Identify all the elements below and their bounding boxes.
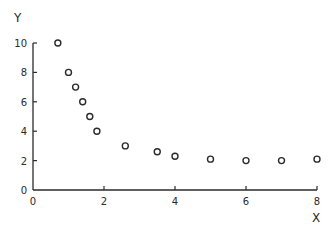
x-tick-label: 4 [172, 196, 178, 207]
data-point [154, 149, 160, 155]
y-axis-label: Y [13, 11, 22, 25]
data-points [55, 40, 320, 164]
scatter-chart: 024681002468 Y X [0, 0, 334, 237]
tick-labels: 024681002468 [14, 38, 320, 207]
x-tick-label: 6 [243, 196, 249, 207]
data-point [208, 156, 214, 162]
x-tick-label: 8 [314, 196, 320, 207]
data-point [172, 153, 178, 159]
data-point [279, 158, 285, 164]
data-point [87, 114, 93, 120]
y-tick-label: 8 [21, 67, 27, 78]
y-tick-label: 10 [14, 38, 27, 49]
data-point [243, 158, 249, 164]
y-tick-label: 2 [21, 156, 27, 167]
data-point [314, 156, 320, 162]
y-tick-label: 6 [21, 97, 27, 108]
data-point [73, 84, 79, 90]
y-tick-label: 4 [21, 126, 27, 137]
data-point [80, 99, 86, 105]
axes [33, 43, 317, 190]
x-tick-label: 2 [101, 196, 107, 207]
x-tick-label: 0 [30, 196, 36, 207]
data-point [66, 69, 72, 75]
y-tick-label: 0 [21, 185, 27, 196]
data-point [122, 143, 128, 149]
data-point [55, 40, 61, 46]
data-point [94, 128, 100, 134]
x-axis-label: X [312, 211, 320, 225]
